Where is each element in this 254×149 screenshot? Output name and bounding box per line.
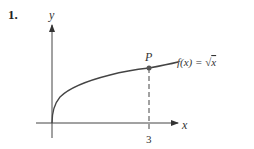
- x-tick-label: 3: [146, 133, 152, 145]
- x-axis-label: x: [181, 118, 188, 132]
- function-label: f(x) = √x: [177, 56, 216, 69]
- point-label: P: [144, 50, 153, 64]
- function-graph: y x P 3 f(x) = √x: [0, 0, 254, 149]
- sqrt-curve: [52, 62, 178, 123]
- point-p: [147, 66, 152, 71]
- y-axis-label: y: [48, 8, 55, 22]
